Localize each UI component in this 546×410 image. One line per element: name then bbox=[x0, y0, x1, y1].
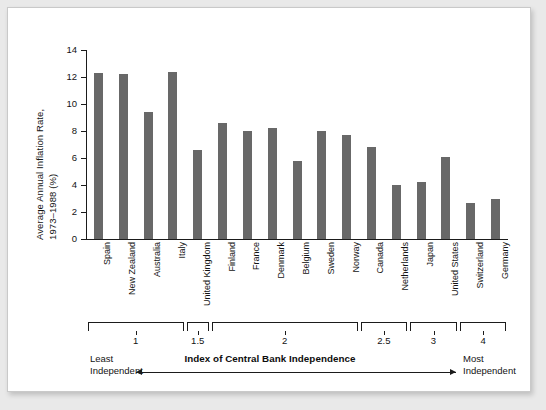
most-independent-line-2: Independent bbox=[463, 365, 516, 377]
index-bracket-label: 3 bbox=[414, 335, 454, 346]
x-axis-category-label: Germany bbox=[500, 242, 510, 279]
x-axis-category-label: Japan bbox=[425, 242, 435, 267]
bar bbox=[466, 203, 475, 239]
x-axis-category-label: Netherlands bbox=[400, 242, 410, 291]
most-independent-label: Most Independent bbox=[463, 353, 516, 376]
index-bracket bbox=[361, 322, 408, 331]
bar bbox=[218, 123, 227, 239]
y-axis-tick-label: 2 bbox=[72, 206, 77, 217]
x-axis-category-label: Sweden bbox=[326, 242, 336, 275]
y-axis-tick-label: 10 bbox=[66, 98, 77, 109]
x-axis-category-label: Switzerland bbox=[475, 242, 485, 289]
index-bracket-label: 2 bbox=[265, 335, 305, 346]
x-axis-category-labels: SpainNew ZealandAustraliaItalyUnited Kin… bbox=[86, 242, 508, 320]
x-axis-category-label: Australia bbox=[152, 242, 162, 277]
bar bbox=[168, 72, 177, 239]
most-independent-line-1: Most bbox=[463, 353, 516, 365]
bar bbox=[268, 128, 277, 239]
y-axis-line bbox=[86, 50, 87, 240]
y-axis-tick: 4 bbox=[81, 185, 86, 186]
x-axis-category-label: Italy bbox=[177, 242, 187, 259]
index-bracket bbox=[460, 322, 507, 331]
x-axis-line bbox=[86, 239, 508, 240]
index-bracket-label: 1 bbox=[116, 335, 156, 346]
bar bbox=[367, 147, 376, 239]
y-axis-tick-label: 6 bbox=[72, 152, 77, 163]
x-axis-category-label: United Kingdom bbox=[202, 242, 212, 306]
y-axis-tick-label: 0 bbox=[72, 233, 77, 244]
bar bbox=[193, 150, 202, 239]
x-axis-category-label: Denmark bbox=[276, 242, 286, 279]
index-bracket-label: 4 bbox=[463, 335, 503, 346]
y-axis-tick: 6 bbox=[81, 158, 86, 159]
x-axis-category-label: New Zealand bbox=[127, 242, 137, 295]
y-axis-title-line-2: 1973–1988 (%) bbox=[47, 174, 58, 240]
bar bbox=[243, 131, 252, 239]
y-axis-tick: 14 bbox=[81, 50, 86, 51]
bar bbox=[491, 199, 500, 240]
index-bracket bbox=[88, 322, 184, 331]
index-bracket bbox=[212, 322, 358, 331]
bar bbox=[441, 157, 450, 239]
index-bracket-label: 2.5 bbox=[364, 335, 404, 346]
chart-page: Average Annual Inflation Rate, 1973–1988… bbox=[7, 7, 531, 392]
plot-area: 02468101214 bbox=[86, 50, 508, 240]
y-axis-tick-label: 14 bbox=[66, 44, 77, 55]
least-independent-label: Least Independent bbox=[90, 353, 143, 376]
arrow-line bbox=[136, 372, 456, 373]
index-bracket bbox=[187, 322, 209, 331]
y-axis-tick: 10 bbox=[81, 104, 86, 105]
y-axis-tick: 2 bbox=[81, 212, 86, 213]
bar bbox=[144, 112, 153, 239]
x-axis-category-label: Norway bbox=[351, 242, 361, 273]
bar bbox=[119, 74, 128, 239]
index-bracket-label: 1.5 bbox=[178, 335, 218, 346]
y-axis-tick: 0 bbox=[81, 239, 86, 240]
y-axis-tick-label: 8 bbox=[72, 125, 77, 136]
index-bracket bbox=[410, 322, 457, 331]
chart-footer: Index of Central Bank Independence Least… bbox=[8, 353, 532, 391]
x-axis-category-label: Canada bbox=[375, 242, 385, 274]
bar bbox=[94, 73, 103, 239]
bar bbox=[317, 131, 326, 239]
y-axis-tick: 8 bbox=[81, 131, 86, 132]
x-axis-category-label: France bbox=[251, 242, 261, 270]
bar bbox=[392, 185, 401, 239]
independence-direction-arrow bbox=[136, 369, 456, 376]
x-axis-category-label: Finland bbox=[227, 242, 237, 272]
bar bbox=[417, 182, 426, 239]
y-axis-title-line-1: Average Annual Inflation Rate, bbox=[34, 109, 45, 240]
bar bbox=[293, 161, 302, 239]
index-bracket-scale: 11.522.534 bbox=[86, 322, 508, 354]
bar bbox=[342, 135, 351, 239]
x-axis-title: Index of Central Bank Independence bbox=[8, 353, 532, 364]
y-axis-tick-label: 4 bbox=[72, 179, 77, 190]
y-axis-title: Average Annual Inflation Rate, 1973–1988… bbox=[22, 48, 56, 248]
arrow-right-icon bbox=[450, 369, 456, 375]
y-axis-tick-label: 12 bbox=[66, 71, 77, 82]
y-axis-tick: 12 bbox=[81, 77, 86, 78]
x-axis-category-label: United States bbox=[450, 242, 460, 296]
x-axis-category-label: Belgium bbox=[301, 242, 311, 275]
least-independent-line-2: Independent bbox=[90, 365, 143, 377]
x-axis-category-label: Spain bbox=[102, 242, 112, 265]
least-independent-line-1: Least bbox=[90, 353, 143, 365]
